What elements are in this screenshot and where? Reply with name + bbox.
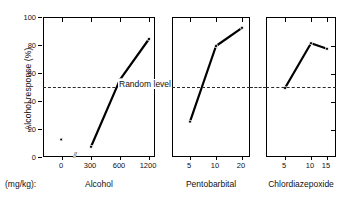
series-chlordiazepoxide bbox=[267, 18, 337, 158]
x-tick-label-alcohol-600: 600 bbox=[104, 162, 134, 170]
x-tick-label-alcohol-300: 300 bbox=[75, 162, 105, 170]
figure-root: Alcohol response (%) 100 80 60 40 20 0 bbox=[0, 0, 345, 214]
y-tick-mark-100 bbox=[38, 17, 42, 18]
y-tick-mark-80 bbox=[38, 45, 42, 46]
panel-title-pentobarbital: Pentobarbital bbox=[186, 179, 236, 189]
data-point-20 bbox=[241, 27, 244, 30]
data-point-300 bbox=[90, 146, 93, 149]
y-tick-label-20: 20 bbox=[14, 126, 36, 134]
data-point-10 bbox=[215, 45, 218, 48]
x-tick-label-pento-20: 20 bbox=[226, 162, 256, 170]
x-tick-label-alcohol-1200: 1200 bbox=[133, 162, 163, 170]
y-tick-label-60: 60 bbox=[14, 70, 36, 78]
series-chlordiazepoxide-line bbox=[285, 43, 327, 88]
y-tick-label-40: 40 bbox=[14, 98, 36, 106]
data-point-1200 bbox=[148, 38, 151, 41]
y-tick-mark-60 bbox=[38, 73, 42, 74]
series-alcohol-line bbox=[91, 39, 149, 147]
y-tick-mark-40 bbox=[38, 101, 42, 102]
data-point-10 bbox=[310, 42, 313, 45]
data-point-0 bbox=[60, 138, 63, 141]
x-tick-label-cdp-15: 15 bbox=[311, 162, 341, 170]
y-tick-mark-0 bbox=[38, 157, 42, 158]
y-tick-label-80: 80 bbox=[14, 42, 36, 50]
x-axis-break-icon: // bbox=[73, 151, 76, 160]
series-pentobarbital-line bbox=[190, 28, 242, 122]
panel-title-chlordiazepoxide: Chlordiazepoxide bbox=[268, 179, 334, 189]
y-tick-mark-20 bbox=[38, 129, 42, 130]
random-level-line-gutter2 bbox=[250, 87, 266, 88]
series-pentobarbital bbox=[173, 18, 251, 158]
random-level-label: Random level bbox=[118, 79, 172, 89]
x-tick-label-alcohol-0: 0 bbox=[46, 162, 76, 170]
panel-title-alcohol: Alcohol bbox=[85, 179, 113, 189]
data-point-15 bbox=[326, 48, 329, 51]
random-level-line-panel3 bbox=[266, 87, 336, 88]
y-tick-label-100: 100 bbox=[14, 14, 36, 22]
x-axis-unit-label: (mg/kg): bbox=[5, 179, 36, 189]
data-point-5 bbox=[189, 120, 192, 123]
random-level-line-panel2 bbox=[172, 87, 250, 88]
y-tick-label-0: 0 bbox=[14, 154, 36, 162]
